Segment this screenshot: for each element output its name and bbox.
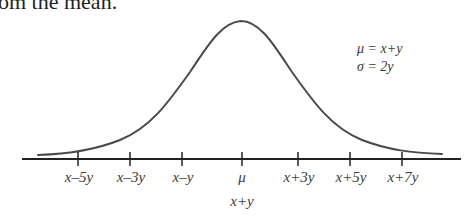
tick-label-x-plus-5y: x+5y (336, 169, 367, 186)
sigma-annotation: σ = 2y (357, 59, 394, 75)
tick-label-x-minus-5y: x–5y (65, 169, 93, 186)
tick-label-x-minus-y: x–y (173, 169, 194, 186)
mean-sublabel: x+y (230, 193, 253, 210)
tick-label-x-minus-3y: x–3y (117, 169, 145, 186)
tick-label-x-plus-7y: x+7y (388, 169, 419, 186)
tick-label-mu: μ (238, 169, 246, 186)
tick-label-x-plus-3y: x+3y (284, 169, 315, 186)
mean-annotation: μ = x+y (357, 41, 402, 57)
normal-distribution-diagram (0, 0, 470, 222)
